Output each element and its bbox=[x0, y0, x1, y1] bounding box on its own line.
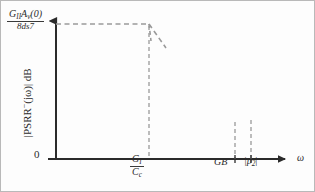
y-axis-title: |PSRR−(jω)| dB bbox=[21, 48, 33, 158]
x-axis-symbol-label: ω bbox=[297, 153, 304, 163]
asymptote-slope bbox=[149, 24, 166, 48]
gi-numerator: GI bbox=[130, 154, 144, 166]
axis-lines bbox=[48, 21, 285, 159]
y-intercept-numerator: GIIAv(0) bbox=[7, 9, 44, 21]
y-intercept-denominator: 8ds7 bbox=[7, 21, 44, 31]
psrr-bode-plot-figure: GIIAv(0) 8ds7 |PSRR−(jω)| dB 0 GI Cc GB … bbox=[0, 0, 315, 192]
cc-denominator: Cc bbox=[130, 166, 144, 179]
plot-canvas bbox=[1, 1, 315, 192]
x-tick-label-gi-over-cc: GI Cc bbox=[130, 154, 144, 179]
x-tick-label-pole-two: |p2| bbox=[244, 156, 257, 168]
x-tick-label-gb: GB bbox=[214, 157, 227, 167]
origin-label: 0 bbox=[34, 149, 40, 160]
y-axis-intercept-label: GIIAv(0) 8ds7 bbox=[7, 9, 44, 31]
